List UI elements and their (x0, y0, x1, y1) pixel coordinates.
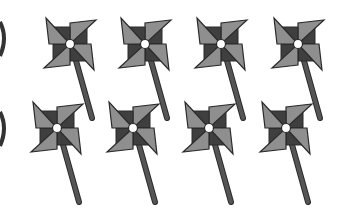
pinwheel (183, 102, 235, 202)
pinwheel-blade (197, 18, 221, 44)
pinwheel-blade (183, 128, 209, 152)
pinwheel-blade (274, 18, 298, 44)
pinwheel-blade (260, 128, 286, 152)
pinwheel (107, 102, 159, 202)
pinwheel-blade (57, 104, 83, 128)
pinwheel-blade (185, 102, 209, 128)
pinwheel-blade (145, 44, 169, 70)
pinwheel-blade (298, 20, 324, 44)
pinwheel (272, 18, 324, 118)
pinwheel-hub (217, 40, 226, 49)
pinwheel-blade (286, 128, 310, 154)
pinwheel-blade (209, 128, 233, 154)
pinwheel-blade (57, 128, 81, 154)
pinwheel-blade (272, 44, 298, 68)
pinwheel-blade (298, 44, 322, 70)
pinwheel-blade (33, 102, 57, 128)
pinwheel-blade (286, 104, 312, 128)
pinwheel-blade (145, 20, 171, 44)
pinwheel-blade (133, 128, 157, 154)
pinwheel-blade (70, 44, 94, 70)
pinwheel-hub (294, 40, 303, 49)
pinwheel-hub (53, 124, 62, 133)
pinwheel-blade (46, 18, 70, 44)
pinwheel-blade (195, 44, 221, 68)
pinwheel-blade (44, 44, 70, 68)
pinwheel (260, 102, 312, 202)
left-edge-arc-top (0, 22, 4, 56)
pinwheel-hub (66, 40, 75, 49)
pinwheel-hub (205, 124, 214, 133)
pinwheel-blade (109, 102, 133, 128)
pinwheel-blade (70, 20, 96, 44)
pinwheel-blade (107, 128, 133, 152)
pinwheel-blade (262, 102, 286, 128)
pinwheel-blade (119, 44, 145, 68)
left-edge-arc-bottom (0, 112, 4, 146)
pinwheel-illustration (0, 0, 340, 210)
pinwheel-blade (31, 128, 57, 152)
pinwheel-hub (141, 40, 150, 49)
pinwheel-blade (221, 44, 245, 70)
pinwheel-hub (282, 124, 291, 133)
pinwheel-blade (221, 20, 247, 44)
pinwheel-blade (121, 18, 145, 44)
pinwheel-hub (129, 124, 138, 133)
pinwheel (195, 18, 247, 118)
pinwheel (119, 18, 171, 118)
pinwheel-blade (133, 104, 159, 128)
pinwheel-blade (209, 104, 235, 128)
pinwheel (44, 18, 96, 118)
pinwheel (31, 102, 83, 202)
